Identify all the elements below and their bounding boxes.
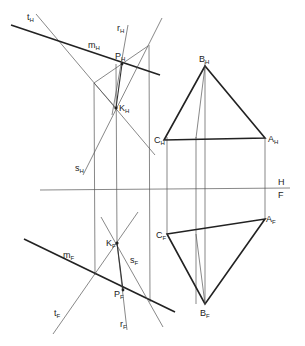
label-BH: BH	[199, 54, 209, 65]
triangle-ABC-F[interactable]	[167, 219, 265, 304]
line-BF-inner	[196, 234, 205, 304]
line-mH[interactable]	[11, 25, 160, 75]
label-KF: KF	[106, 238, 116, 249]
labels: tH mH rH PH KH sH BH CH AH H F KF sF mF …	[27, 12, 285, 330]
line-BH-inner	[196, 66, 205, 138]
point-PF[interactable]	[122, 289, 125, 292]
label-F: F	[278, 190, 284, 200]
point-PH[interactable]	[121, 63, 124, 66]
label-rH: rH	[117, 23, 124, 34]
label-tF: tF	[54, 308, 61, 319]
label-CH: CH	[154, 135, 165, 146]
line-sF	[101, 217, 163, 327]
point-KF[interactable]	[115, 241, 118, 244]
label-sF: sF	[130, 255, 139, 266]
label-AF: AF	[266, 214, 276, 225]
label-H: H	[278, 177, 285, 187]
diagram-canvas: tH mH rH PH KH sH BH CH AH H F KF sF mF …	[0, 0, 305, 346]
label-BF: BF	[200, 308, 210, 319]
axis-line	[40, 188, 290, 190]
label-mH: mH	[88, 40, 100, 51]
label-KH: KH	[119, 103, 129, 114]
label-mF: mF	[63, 250, 75, 261]
projector-line	[149, 45, 150, 302]
triangle-ABC-H[interactable]	[164, 66, 265, 140]
label-sH: sH	[75, 163, 84, 174]
construction-line	[94, 83, 116, 108]
label-tH: tH	[27, 12, 34, 23]
line-mF[interactable]	[24, 239, 175, 312]
label-AH: AH	[268, 134, 278, 145]
projector-line	[94, 83, 95, 275]
label-CF: CF	[156, 230, 167, 241]
label-PH: PH	[115, 51, 125, 62]
point-KH[interactable]	[114, 106, 117, 109]
